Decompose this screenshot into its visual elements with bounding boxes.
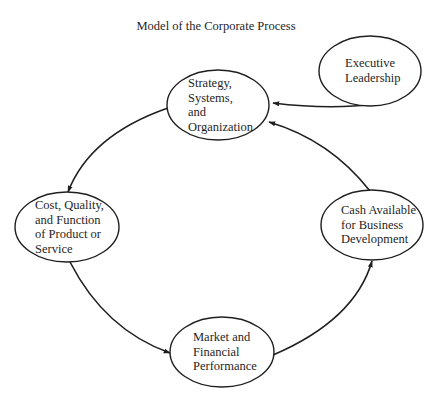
node-label-line: Strategy, [188,76,232,90]
node-label-line: Executive [345,56,395,70]
arrow-cash-to-strategy [269,122,370,191]
node-label-line: Development [341,232,409,246]
node-cash: Cash Availablefor BusinessDevelopment [321,190,423,260]
node-label-line: Cash Available [341,203,417,217]
node-label-line: Leadership [345,71,401,85]
node-executive: ExecutiveLeadership [319,36,421,106]
node-label-line: for Business [341,218,403,232]
arrow-strategy-to-cost [68,108,168,192]
node-label-line: Cost, Quality, [35,198,104,212]
node-label-line: Financial [193,345,240,359]
node-cost: Cost, Quality,and Functionof Product orS… [15,192,119,262]
node-label-line: Organization [188,120,254,134]
node-label-line: Systems, [188,91,233,105]
node-label-line: of Product or [35,227,102,241]
node-label-line: and [188,105,207,119]
node-label-line: Market and [193,330,251,344]
node-market: Market andFinancialPerformance [170,317,274,387]
node-label-line: Performance [193,359,257,373]
arrow-cost-to-market [70,262,170,353]
nodes: Strategy,Systems,andOrganizationExecutiv… [15,36,423,387]
diagram-title: Model of the Corporate Process [137,19,296,33]
node-strategy: Strategy,Systems,andOrganization [167,70,269,140]
corporate-process-diagram: Model of the Corporate Process Strategy,… [0,0,440,409]
arrow-market-to-cash [273,261,372,355]
node-label-line: and Function [35,213,101,227]
node-label-line: Service [35,242,73,256]
